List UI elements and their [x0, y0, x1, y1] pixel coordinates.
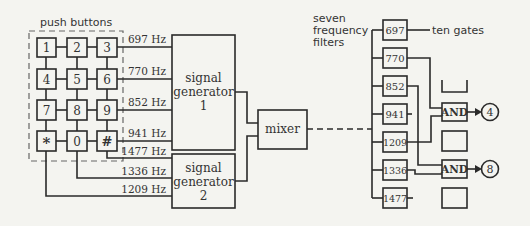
and-gate-8: AND [440, 160, 468, 178]
mixer: mixer [258, 110, 307, 149]
svg-text:5: 5 [73, 73, 81, 87]
svg-text:1: 1 [43, 41, 51, 55]
svg-text:generator: generator [173, 175, 234, 189]
gates: AND AND [440, 80, 468, 208]
and-gate-4: AND [440, 103, 468, 121]
svg-text:852 Hz: 852 Hz [128, 96, 167, 108]
svg-text:7: 7 [43, 104, 51, 118]
filter-1477: 1477 [383, 188, 407, 208]
svg-text:1336 Hz: 1336 Hz [121, 165, 166, 177]
svg-text:1336: 1336 [383, 165, 407, 176]
filter-1336: 1336 [383, 160, 407, 180]
svg-text:4: 4 [487, 106, 494, 119]
svg-text:697 Hz: 697 Hz [128, 33, 167, 45]
key-star[interactable]: * [37, 131, 56, 152]
gen2-to-mixer-wire [235, 136, 258, 181]
key-2[interactable]: 2 [67, 38, 87, 57]
filter-1209: 1209 [383, 132, 407, 152]
seven-frequency-filters-label: seven frequency filters [313, 12, 369, 49]
gate-placeholder [442, 131, 467, 151]
svg-text:6: 6 [103, 73, 111, 87]
svg-text:8: 8 [487, 163, 494, 176]
filter-bus [372, 30, 383, 198]
gate-placeholder-top [442, 80, 467, 92]
gate-placeholder [442, 188, 467, 208]
key-5[interactable]: 5 [67, 69, 87, 89]
svg-text:8: 8 [73, 104, 81, 118]
output-8: 8 [467, 161, 499, 178]
svg-text:1209 Hz: 1209 Hz [121, 183, 166, 195]
filter-852: 852 [383, 76, 407, 96]
svg-text:signal: signal [185, 161, 222, 175]
svg-text:770 Hz: 770 Hz [128, 65, 167, 77]
ten-gates-label: ten gates [432, 24, 484, 37]
column-frequency-labels: 1477 Hz 1336 Hz 1209 Hz [121, 145, 166, 195]
hash-icon: # [102, 134, 113, 149]
svg-text:mixer: mixer [265, 122, 300, 136]
key-1[interactable]: 1 [37, 38, 56, 57]
key-6[interactable]: 6 [97, 69, 117, 89]
output-4: 4 [467, 104, 499, 121]
filter-gate-wires [407, 58, 442, 198]
svg-text:1209: 1209 [383, 137, 407, 148]
filters: 697 770 852 941 1209 1336 1477 [383, 20, 407, 208]
svg-text:852: 852 [385, 81, 404, 92]
key-0[interactable]: 0 [67, 131, 87, 151]
filter-941: 941 [383, 104, 407, 124]
signal-generator-2: signal generator 2 [172, 154, 235, 208]
svg-text:1: 1 [200, 99, 208, 113]
svg-text:1477: 1477 [383, 193, 407, 204]
push-buttons-label: push buttons [40, 16, 112, 29]
filter-770: 770 [383, 48, 407, 68]
svg-text:generator: generator [173, 85, 234, 99]
key-4[interactable]: 4 [37, 69, 56, 89]
dtmf-block-diagram: push buttons 1 2 3 4 5 6 7 8 9 * 0 # [0, 0, 530, 226]
key-7[interactable]: 7 [37, 100, 56, 120]
svg-text:0: 0 [73, 135, 81, 149]
key-9[interactable]: 9 [97, 100, 117, 120]
svg-text:AND: AND [440, 163, 468, 175]
svg-text:filters: filters [313, 36, 345, 49]
svg-text:9: 9 [103, 104, 111, 118]
svg-text:2: 2 [200, 189, 208, 203]
svg-text:697: 697 [385, 25, 404, 36]
key-8[interactable]: 8 [67, 100, 87, 120]
svg-text:AND: AND [440, 106, 468, 118]
svg-text:1477 Hz: 1477 Hz [121, 145, 166, 157]
svg-text:941: 941 [385, 109, 404, 120]
row-frequency-labels: 697 Hz 770 Hz 852 Hz 941 Hz [128, 33, 167, 139]
svg-text:3: 3 [103, 41, 111, 55]
gen1-to-mixer-wire [235, 92, 258, 123]
asterisk-icon: * [43, 134, 51, 152]
key-3[interactable]: 3 [97, 38, 117, 57]
svg-text:signal: signal [185, 71, 222, 85]
key-hash[interactable]: # [97, 131, 117, 151]
svg-text:4: 4 [43, 73, 51, 87]
filter-697: 697 [383, 20, 407, 40]
signal-generator-1: signal generator 1 [172, 35, 235, 150]
svg-text:941 Hz: 941 Hz [128, 127, 167, 139]
svg-text:2: 2 [73, 41, 81, 55]
svg-text:770: 770 [385, 53, 404, 64]
